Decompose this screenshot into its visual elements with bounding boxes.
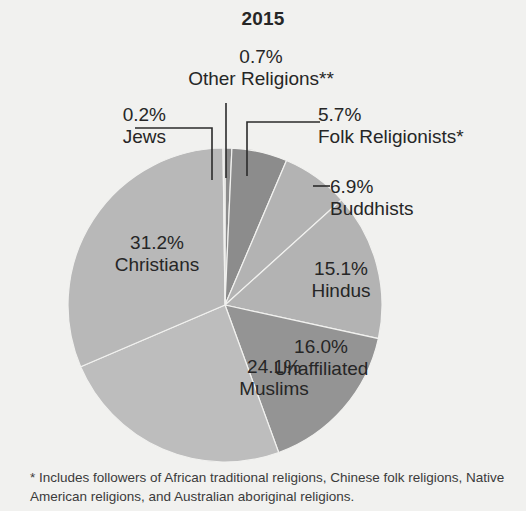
slice-name-hindus: Hindus: [286, 280, 396, 302]
slice-pct-muslims: 24.1%: [214, 356, 334, 378]
slice-label-jews: 0.2% Jews: [26, 104, 166, 147]
slice-pct-other-religions: 0.7%: [126, 46, 396, 68]
slice-name-jews: Jews: [26, 126, 166, 148]
pie-chart-figure: 2015 0.7% Other Religions** 0.2% Jews 5.…: [0, 0, 526, 511]
slice-label-hindus: 15.1% Hindus: [286, 258, 396, 301]
slice-pct-folk-religionists: 5.7%: [318, 104, 524, 126]
footnote-text: * Includes followers of African traditio…: [30, 468, 508, 506]
slice-pct-hindus: 15.1%: [286, 258, 396, 280]
slice-name-muslims: Muslims: [214, 378, 334, 400]
slice-label-other-religions: 0.7% Other Religions**: [126, 46, 396, 89]
slice-pct-unaffiliated: 16.0%: [250, 336, 392, 358]
slice-label-muslims: 24.1% Muslims: [214, 356, 334, 399]
slice-pct-christians: 31.2%: [92, 232, 222, 254]
slice-pct-buddhists: 6.9%: [330, 176, 520, 198]
slice-pct-jews: 0.2%: [26, 104, 166, 126]
slice-label-folk-religionists: 5.7% Folk Religionists*: [318, 104, 524, 147]
slice-label-christians: 31.2% Christians: [92, 232, 222, 275]
slice-name-other-religions: Other Religions**: [126, 68, 396, 90]
slice-name-christians: Christians: [92, 254, 222, 276]
slice-name-buddhists: Buddhists: [330, 198, 520, 220]
slice-name-folk-religionists: Folk Religionists*: [318, 126, 524, 148]
slice-label-buddhists: 6.9% Buddhists: [330, 176, 520, 219]
